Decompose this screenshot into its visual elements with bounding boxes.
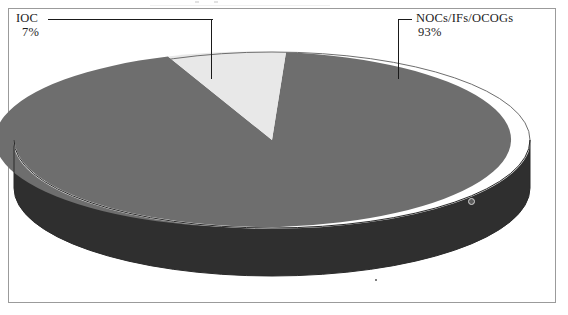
pie-chart-figure: IOC 7% NOCs/IFs/OCOGs 93%	[0, 0, 568, 315]
scan-speck-dot	[375, 279, 377, 281]
leader-line-ioc-drop	[211, 19, 212, 79]
pie-graphic	[0, 0, 568, 315]
leader-line-nocs	[398, 19, 412, 20]
callout-ioc: IOC 7%	[16, 11, 39, 39]
scan-speck-ring	[468, 198, 475, 205]
callout-ioc-percent: 7%	[16, 25, 39, 39]
callout-nocs: NOCs/IFs/OCOGs 93%	[416, 11, 513, 39]
leader-line-nocs-drop	[398, 19, 399, 79]
pie-svg	[0, 0, 568, 315]
callout-nocs-name: NOCs/IFs/OCOGs	[416, 11, 513, 25]
callout-nocs-percent: 93%	[416, 25, 513, 39]
leader-line-ioc	[48, 19, 213, 20]
callout-ioc-name: IOC	[16, 11, 38, 25]
